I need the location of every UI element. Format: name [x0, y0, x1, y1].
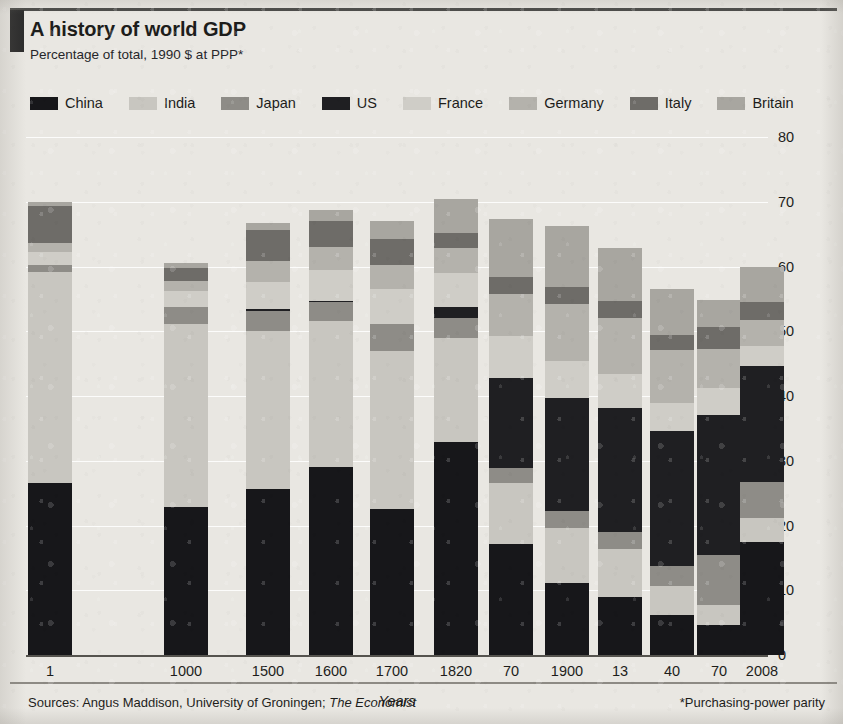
bar-segment-japan	[370, 324, 414, 351]
bar-segment-britain	[489, 219, 533, 277]
legend-item-us[interactable]: US	[322, 95, 377, 111]
legend-item-india[interactable]: India	[129, 95, 195, 111]
bar-segment-india	[28, 272, 72, 483]
bar-segment-france	[697, 388, 741, 416]
legend: ChinaIndiaJapanUSFranceGermanyItalyBrita…	[30, 92, 825, 114]
bar-70[interactable]	[489, 219, 533, 655]
bar-segment-china	[740, 542, 784, 655]
bottom-rule	[10, 682, 837, 684]
bar-2008[interactable]	[740, 267, 784, 656]
bar-segment-germany	[489, 294, 533, 336]
bar-segment-japan	[246, 311, 290, 331]
chart-subtitle: Percentage of total, 1990 $ at PPP*	[30, 47, 243, 62]
bar-segment-italy	[309, 221, 353, 247]
bar-segment-france	[489, 336, 533, 378]
bar-segment-italy	[650, 335, 694, 351]
bar-1900[interactable]	[545, 226, 589, 655]
bar-1[interactable]	[28, 202, 72, 655]
bar-segment-france	[28, 252, 72, 265]
chart-figure: A history of world GDP Percentage of tot…	[0, 0, 843, 724]
bar-segment-france	[309, 270, 353, 300]
legend-label: US	[357, 95, 377, 111]
bar-40[interactable]	[650, 289, 694, 655]
germany-swatch	[509, 97, 537, 110]
bar-segment-italy	[598, 301, 642, 317]
plot-area: 0102030405060708011000150016001700182070…	[26, 137, 768, 655]
axis-baseline	[26, 655, 768, 657]
page-title: A history of world GDP	[30, 18, 246, 41]
bar-segment-germany	[246, 261, 290, 282]
bar-segment-britain	[598, 248, 642, 302]
bar-segment-us	[697, 415, 741, 554]
bar-segment-china	[650, 615, 694, 655]
bar-segment-us	[434, 307, 478, 319]
bar-13[interactable]	[598, 248, 642, 655]
bar-segment-china	[697, 625, 741, 655]
bar-segment-britain	[246, 223, 290, 230]
bar-segment-china	[28, 483, 72, 655]
bar-segment-japan	[309, 302, 353, 321]
bar-segment-france	[370, 289, 414, 323]
bar-segment-japan	[697, 555, 741, 606]
legend-label: Germany	[544, 95, 604, 111]
bar-segment-japan	[434, 318, 478, 337]
x-axis-tick-1820: 1820	[440, 663, 472, 679]
bar-1000[interactable]	[164, 263, 208, 655]
bar-segment-germany	[545, 304, 589, 361]
bar-segment-france	[434, 273, 478, 307]
legend-label: China	[65, 95, 103, 111]
bar-segment-us	[545, 398, 589, 511]
x-axis-tick-13: 13	[612, 663, 628, 679]
bar-segment-germany	[697, 349, 741, 387]
bar-segment-britain	[697, 300, 741, 327]
x-axis-tick-2008: 2008	[746, 663, 778, 679]
bar-segment-india	[489, 483, 533, 545]
bar-segment-india	[598, 549, 642, 598]
bar-segment-france	[246, 282, 290, 309]
bar-segment-italy	[28, 206, 72, 242]
france-swatch	[403, 97, 431, 110]
bar-segment-us	[650, 431, 694, 566]
bar-segment-china	[489, 544, 533, 655]
bar-segment-india	[434, 338, 478, 442]
bar-1500[interactable]	[246, 223, 290, 655]
britain-swatch	[717, 97, 745, 110]
corner-tab	[10, 10, 24, 52]
x-axis-tick-1: 1	[46, 663, 54, 679]
legend-label: France	[438, 95, 483, 111]
bar-segment-britain	[370, 221, 414, 240]
bar-segment-france	[650, 403, 694, 431]
bar-70[interactable]	[697, 300, 741, 655]
bar-segment-france	[164, 291, 208, 307]
bar-segment-india	[164, 324, 208, 507]
x-axis-tick-70: 70	[711, 663, 727, 679]
bar-segment-italy	[697, 327, 741, 350]
bar-segment-china	[598, 597, 642, 655]
bar-segment-china	[164, 507, 208, 655]
bar-segment-germany	[309, 247, 353, 270]
us-swatch	[322, 97, 350, 110]
bar-segment-italy	[164, 268, 208, 281]
bar-1820[interactable]	[434, 199, 478, 655]
bar-segment-india	[309, 321, 353, 467]
bar-segment-germany	[650, 350, 694, 402]
bar-segment-japan	[489, 468, 533, 483]
bar-segment-italy	[489, 277, 533, 294]
legend-item-japan[interactable]: Japan	[221, 95, 296, 111]
bar-segment-china	[545, 583, 589, 655]
bar-segment-japan	[740, 482, 784, 518]
bar-1700[interactable]	[370, 221, 414, 655]
bar-segment-italy	[246, 230, 290, 260]
bar-segment-india	[650, 586, 694, 615]
bar-1600[interactable]	[309, 210, 353, 655]
legend-item-italy[interactable]: Italy	[630, 95, 692, 111]
bar-segment-france	[740, 346, 784, 366]
legend-item-britain[interactable]: Britain	[717, 95, 793, 111]
gridline-80	[26, 137, 768, 138]
bar-segment-italy	[545, 287, 589, 304]
legend-item-france[interactable]: France	[403, 95, 483, 111]
legend-label: India	[164, 95, 195, 111]
bar-segment-britain	[740, 267, 784, 303]
legend-item-germany[interactable]: Germany	[509, 95, 604, 111]
legend-item-china[interactable]: China	[30, 95, 103, 111]
